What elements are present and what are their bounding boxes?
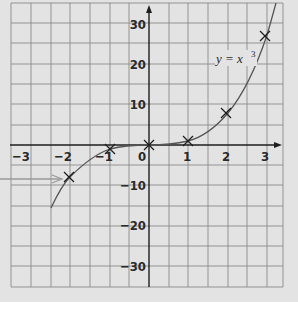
y-axis-arrow-icon (146, 5, 152, 13)
equation-label: y = x 3 (214, 49, 257, 66)
y-tick-label: 10 (130, 97, 146, 112)
x-axis-arrow-icon (274, 142, 282, 148)
x-tick-label: −1 (95, 149, 113, 164)
x-tick-label: 1 (183, 149, 191, 164)
x-tick-label: 0 (138, 149, 146, 164)
y-tick-label: 30 (130, 17, 146, 32)
x-tick-label: 3 (261, 149, 269, 164)
y-tick-label: 20 (130, 57, 146, 72)
y-tick-label: −20 (120, 218, 146, 233)
y-tick-label: −10 (120, 178, 146, 193)
x-tick-label: −2 (54, 149, 72, 164)
equation-exponent: 3 (251, 49, 256, 59)
x-tick-label: −3 (12, 149, 30, 164)
x-tick-label: 2 (222, 149, 230, 164)
cross-marker-icon (221, 108, 231, 118)
equation-text: y = x (214, 51, 243, 66)
cross-marker-icon (64, 172, 74, 182)
y-tick-label: −30 (120, 259, 146, 274)
cubic-curve (51, 3, 276, 208)
cubic-graph: −3 −2 −1 0 1 2 3 30 20 10 −10 −20 −30 y … (0, 0, 298, 315)
